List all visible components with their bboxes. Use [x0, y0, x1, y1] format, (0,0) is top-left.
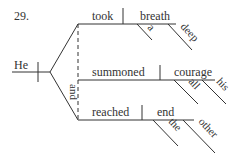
predicate-3: reached end the other	[78, 105, 221, 153]
subject-word: He	[14, 58, 28, 72]
predicate-2-verb: summoned	[92, 65, 145, 79]
modifier-word: other	[197, 115, 221, 140]
conjunction-word: and	[68, 84, 80, 100]
predicate-1: took breath a deep	[78, 8, 202, 50]
predicate-3-verb: reached	[92, 105, 129, 119]
exercise-number: 29.	[14, 9, 29, 23]
fork-top	[50, 24, 78, 72]
sentence-diagram: 29. He and took breath a deep summoned c…	[0, 0, 249, 167]
modifier-word: his	[215, 75, 233, 93]
predicate-1-verb: took	[92, 9, 113, 23]
predicate-3-object: end	[157, 105, 174, 119]
modifier-word: deep	[179, 20, 202, 44]
predicate-2: summoned courage all his	[78, 65, 232, 104]
